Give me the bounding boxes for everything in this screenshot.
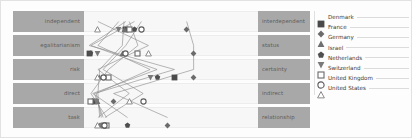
legend-tail-rule (369, 88, 409, 89)
data-point (140, 90, 147, 97)
data-point (126, 90, 133, 97)
data-point (110, 90, 117, 97)
data-point (190, 66, 197, 73)
legend-label: Denmark (328, 13, 354, 21)
legend-label: Germany (328, 33, 354, 41)
legend-tail-rule (364, 68, 409, 69)
legend-marker-icon (317, 33, 325, 41)
legend-divider (314, 11, 315, 95)
legend-marker-icon (317, 64, 325, 72)
data-point (115, 18, 122, 25)
legend-marker-icon (317, 74, 325, 82)
parallel-coordinates-plot: independent interdependent egalitarianis… (13, 11, 310, 129)
legend-marker-icon (317, 13, 325, 21)
legend-item[interactable]: Switzerland (317, 63, 409, 73)
legend-label: France (328, 23, 347, 31)
data-point (124, 114, 131, 121)
data-point (154, 66, 161, 73)
legend-item[interactable]: United States (317, 83, 409, 93)
legend-marker-icon (317, 84, 325, 92)
data-point (122, 42, 129, 49)
series-markers (13, 11, 310, 129)
legend-label: United Kingdom (328, 74, 373, 82)
data-point (101, 114, 108, 121)
data-point (87, 90, 94, 97)
data-point (147, 66, 154, 73)
data-point (94, 42, 101, 49)
data-point (94, 114, 101, 121)
legend-marker-icon (317, 23, 325, 31)
legend-item[interactable]: Israel (317, 43, 409, 53)
legend-marker-icon (317, 54, 325, 62)
legend-item[interactable]: United Kingdom (317, 73, 409, 83)
data-point (145, 42, 152, 49)
data-point (94, 66, 101, 73)
data-point (164, 114, 171, 121)
data-point (126, 18, 133, 25)
legend-tail-rule (357, 17, 409, 18)
legend-tail-rule (365, 57, 409, 58)
data-point (183, 18, 190, 25)
data-point (171, 66, 178, 73)
legend-item[interactable]: Netherlands (317, 53, 409, 63)
legend-item[interactable]: France (317, 22, 409, 32)
legend-tail-rule (376, 78, 409, 79)
data-point (138, 18, 145, 25)
legend-tail-rule (357, 37, 409, 38)
data-point (134, 42, 141, 49)
legend-label: Netherlands (328, 54, 362, 62)
legend-label: United States (328, 84, 366, 92)
legend-label: Switzerland (328, 64, 361, 72)
data-point (87, 42, 94, 49)
legend-item[interactable]: Denmark (317, 12, 409, 22)
legend: DenmarkFranceGermanyIsraelNetherlandsSwi… (317, 12, 409, 94)
data-point (94, 18, 101, 25)
legend-item[interactable]: Germany (317, 32, 409, 42)
legend-label: Israel (328, 44, 343, 52)
legend-marker-icon (317, 44, 325, 52)
chart-figure: independent interdependent egalitarianis… (0, 0, 412, 138)
data-point (190, 42, 197, 49)
legend-tail-rule (350, 27, 409, 28)
legend-tail-rule (346, 47, 409, 48)
